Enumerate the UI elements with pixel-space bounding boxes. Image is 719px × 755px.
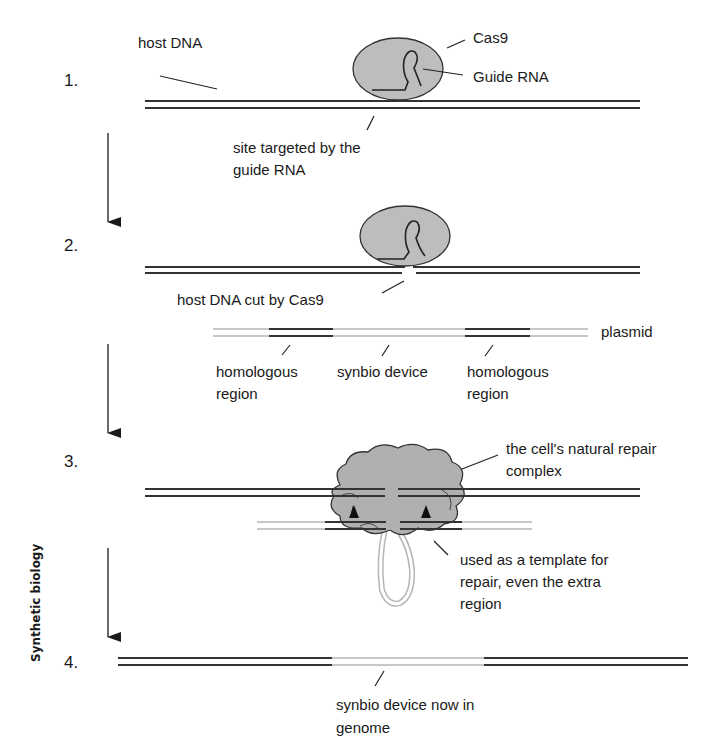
label-homologous-right-line1: homologous (467, 363, 549, 380)
step-1-cas9-protein (353, 38, 443, 100)
leader-homologous-right (485, 345, 493, 356)
label-cas9: Cas9 (473, 29, 508, 46)
step-2-cut-host-dna (145, 267, 640, 273)
label-site-targeted-line1: site targeted by the (233, 139, 361, 156)
label-genome-line1: synbio device now in (336, 696, 474, 713)
plasmid (213, 329, 588, 336)
label-repair-complex-line1: the cell's natural repair (506, 440, 656, 457)
step-3-template-loop (381, 528, 413, 604)
label-template-line3: region (460, 595, 502, 612)
label-site-targeted-line2: guide RNA (233, 161, 306, 178)
label-host-dna: host DNA (138, 34, 202, 51)
label-dna-cut: host DNA cut by Cas9 (177, 291, 324, 308)
step-number-4: 4. (64, 653, 78, 672)
crispr-diagram: Synthetic biology 1. 2. 3. 4. host DNA C… (0, 0, 719, 755)
label-template-line1: used as a template for (460, 551, 608, 568)
leader-synbio-device (382, 345, 389, 356)
label-synbio-device: synbio device (337, 363, 428, 380)
label-guide-rna: Guide RNA (473, 68, 549, 85)
step-number-1: 1. (64, 71, 78, 90)
label-homologous-left-line2: region (216, 385, 258, 402)
label-homologous-left-line1: homologous (216, 363, 298, 380)
sidebar-title: Synthetic biology (29, 544, 43, 662)
leader-dna-cut (382, 281, 404, 293)
leader-host-dna (160, 76, 217, 89)
label-genome-line2: genome (336, 719, 390, 736)
step-number-3: 3. (64, 452, 78, 471)
label-homologous-right-line2: region (467, 385, 509, 402)
step-number-2: 2. (64, 236, 78, 255)
step-2-cas9-protein (360, 206, 450, 266)
step-1-host-dna (145, 101, 640, 108)
leader-template (434, 541, 448, 555)
leader-repair-complex (462, 455, 498, 469)
label-template-line2: repair, even the extra (460, 573, 602, 590)
label-plasmid: plasmid (601, 323, 653, 340)
leader-homologous-left (282, 345, 290, 355)
leader-genome (375, 671, 384, 686)
step-4-genome (118, 658, 688, 665)
leader-cas9 (447, 40, 465, 48)
leader-site-targeted (367, 116, 374, 130)
label-repair-complex-line2: complex (506, 462, 562, 479)
